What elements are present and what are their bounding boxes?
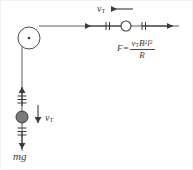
velocity-top-label: vT	[97, 4, 105, 15]
hanging-mass-ball	[16, 111, 28, 123]
formula-numerator: vTB2l2	[130, 38, 155, 49]
formula-equals: =	[124, 44, 129, 53]
formula-num-l-exp: 2	[150, 39, 153, 45]
weight-label: mg	[13, 151, 26, 162]
velocity-top-subscript: T	[101, 7, 105, 14]
formula-fraction: vTB2l2 R	[130, 38, 155, 60]
formula-denominator: R	[137, 50, 147, 60]
velocity-mass-label: vT	[45, 113, 53, 124]
pulley-axle-dot	[28, 37, 31, 40]
force-formula: F = vTB2l2 R	[117, 38, 155, 60]
formula-lhs: F	[117, 44, 123, 53]
physics-diagram: vT vT mg F = vTB2l2 R	[0, 0, 193, 170]
diagram-canvas	[1, 1, 193, 170]
sliding-rod-circle	[121, 21, 131, 31]
velocity-mass-subscript: T	[49, 116, 53, 123]
